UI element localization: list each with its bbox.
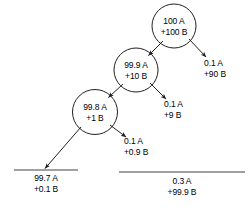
waste-2-label-line2: +9 B: [164, 110, 183, 121]
waste-2-label-line1: 0.1 A: [164, 99, 183, 110]
waste-3-label-line2: +0.9 B: [124, 147, 148, 158]
stage-1-label-line1: 100 A: [161, 16, 188, 27]
stage-2-label-line2: +10 B: [124, 70, 148, 81]
stage-2-label-line1: 99.9 A: [124, 60, 148, 71]
waste-stream-label-line1: 0.3 A: [168, 176, 197, 187]
cascade-separation-diagram: 100 A +100 B 99.9 A +10 B 99.8 A +1 B 0.…: [0, 0, 249, 212]
arrow-stage1-to-waste1: [189, 39, 206, 57]
stage-2-label: 99.9 A +10 B: [124, 60, 148, 81]
waste-1-label-line2: +90 B: [204, 69, 226, 80]
arrow-stage2-to-waste2: [150, 83, 166, 99]
product-stream-label-line1: 99.7 A: [34, 173, 58, 184]
stage-1-label-line2: +100 B: [161, 26, 188, 37]
product-stream-label-line2: +0.1 B: [34, 184, 58, 195]
waste-2-label: 0.1 A +9 B: [164, 99, 183, 120]
waste-1-label: 0.1 A +90 B: [204, 58, 226, 79]
waste-1-label-line1: 0.1 A: [204, 58, 226, 69]
arrow-stage3-to-product: [45, 127, 81, 169]
product-stream-label: 99.7 A +0.1 B: [34, 173, 58, 194]
stage-1-label: 100 A +100 B: [161, 16, 188, 37]
waste-stream-label: 0.3 A +99.9 B: [168, 176, 197, 197]
waste-3-label: 0.1 A +0.9 B: [124, 136, 148, 157]
stage-3-label-line1: 99.8 A: [83, 102, 107, 113]
stage-3-label-line2: +1 B: [83, 112, 107, 123]
stage-3-label: 99.8 A +1 B: [83, 102, 107, 123]
arrow-stage1-to-stage2: [149, 41, 164, 56]
waste-stream-label-line2: +99.9 B: [168, 187, 197, 198]
arrow-stage2-to-stage3: [109, 84, 124, 98]
waste-3-label-line1: 0.1 A: [124, 136, 148, 147]
